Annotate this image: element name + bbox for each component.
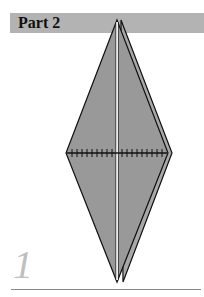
divider bbox=[11, 289, 201, 290]
step-number: 1 bbox=[13, 243, 33, 287]
